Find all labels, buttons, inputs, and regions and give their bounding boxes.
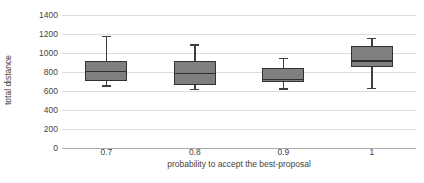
y-tick-label: 800 — [28, 67, 58, 77]
median-line — [352, 60, 392, 62]
y-tick-label: 1200 — [28, 29, 58, 39]
box — [351, 46, 393, 66]
upper-whisker — [283, 58, 285, 68]
x-tick-label: 1 — [350, 147, 394, 157]
upper-whisker — [194, 44, 196, 61]
y-tick-label: 400 — [28, 105, 58, 115]
upper-whisker-cap — [367, 38, 376, 40]
lower-whisker-cap — [190, 89, 199, 91]
upper-whisker-cap — [190, 44, 199, 46]
gridline — [62, 15, 416, 16]
upper-whisker-cap — [279, 58, 288, 60]
x-tick-label: 0.9 — [261, 147, 305, 157]
gridline — [62, 91, 416, 92]
upper-whisker-cap — [102, 36, 111, 38]
y-tick-label: 0 — [28, 143, 58, 153]
y-tick-label: 200 — [28, 124, 58, 134]
y-tick-label: 1000 — [28, 48, 58, 58]
median-line — [263, 79, 303, 81]
gridline — [62, 34, 416, 35]
gridline — [62, 129, 416, 130]
lower-whisker-cap — [367, 88, 376, 90]
lower-whisker-cap — [102, 85, 111, 87]
box — [262, 68, 304, 83]
lower-whisker — [371, 67, 373, 88]
x-axis-title: probability to accept the best-proposal — [62, 159, 416, 169]
x-tick-label: 0.8 — [173, 147, 217, 157]
y-tick-label: 1400 — [28, 10, 58, 20]
x-tick-label: 0.7 — [84, 147, 128, 157]
boxplot-chart: total distance probability to accept the… — [0, 0, 424, 183]
y-tick-label: 600 — [28, 86, 58, 96]
median-line — [86, 71, 126, 73]
median-line — [175, 73, 215, 75]
gridline — [62, 110, 416, 111]
lower-whisker-cap — [279, 88, 288, 90]
upper-whisker — [106, 36, 108, 61]
y-axis-title: total distance — [3, 45, 13, 115]
